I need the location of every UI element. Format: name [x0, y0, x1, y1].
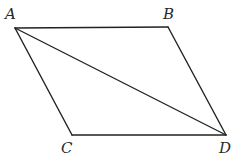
vertex-label-d: D: [218, 139, 231, 157]
vertex-label-a: A: [3, 5, 16, 23]
vertex-label-c: C: [61, 139, 73, 157]
diagonal-ad: [15, 28, 226, 135]
side-ab: [15, 27, 168, 28]
vertex-label-b: B: [162, 5, 174, 23]
side-bd: [168, 27, 226, 135]
side-ca: [15, 28, 72, 135]
edges: [15, 27, 226, 135]
parallelogram-diagram: A B C D: [0, 0, 247, 167]
